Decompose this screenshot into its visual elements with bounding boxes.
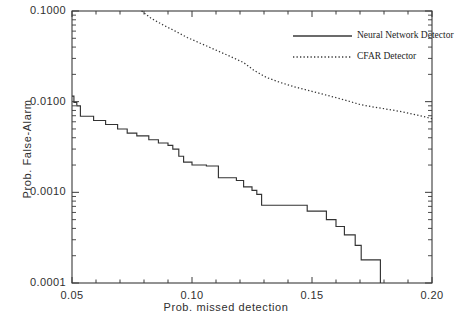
x-tick-label: 0.20 — [402, 289, 459, 301]
y-tick-label: 0.0001 — [6, 276, 66, 288]
legend-entry-label: CFAR Detector — [357, 51, 416, 61]
x-tick-label: 0.10 — [162, 289, 222, 301]
y-axis-title-wrapper: Prob. False-Alarm — [17, 49, 35, 249]
y-tick-label: 0.1000 — [6, 4, 66, 16]
y-axis-title: Prob. False-Alarm — [21, 100, 33, 199]
legend-line-samples — [293, 36, 352, 57]
y-tick-label: 0.0100 — [6, 95, 66, 107]
x-tick-label: 0.15 — [282, 289, 342, 301]
legend-entry-label: Neural Network Detector — [357, 30, 454, 40]
y-tick-label: 0.0010 — [6, 185, 66, 197]
x-axis-title: Prob. missed detection — [0, 301, 452, 313]
x-tick-label: 0.05 — [42, 289, 102, 301]
